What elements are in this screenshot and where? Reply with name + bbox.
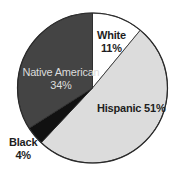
label-hispanic: Hispanic 51% (97, 102, 166, 115)
label-white-pct: 11% (97, 42, 126, 55)
label-native-american-name: Native American (22, 66, 100, 79)
label-black-name: Black (9, 136, 37, 149)
label-native-american: Native American 34% (22, 66, 100, 92)
label-white: White 11% (97, 29, 126, 55)
label-black: Black 4% (9, 136, 37, 162)
label-native-american-pct: 34% (22, 79, 100, 92)
label-hispanic-text: Hispanic 51% (97, 102, 166, 115)
label-black-pct: 4% (9, 149, 37, 162)
label-white-name: White (97, 29, 126, 42)
